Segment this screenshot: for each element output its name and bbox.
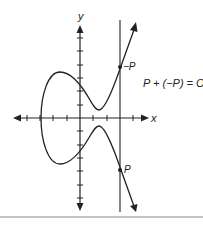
elliptic-curve-diagram: y x −P P P + (−P) = O xyxy=(0,0,203,225)
arrowhead-down-icon xyxy=(130,204,138,212)
arrowhead-up-icon xyxy=(130,22,138,32)
equation-label: P + (−P) = O xyxy=(143,77,203,89)
curve-lower-branch xyxy=(41,118,135,209)
point-p xyxy=(118,168,122,172)
x-axis xyxy=(13,115,149,122)
y-axis-label: y xyxy=(77,10,85,22)
point-neg-p xyxy=(118,65,122,69)
curve-upper-branch xyxy=(41,27,135,118)
neg-p-label: −P xyxy=(123,61,136,72)
x-axis-label: x xyxy=(150,112,157,124)
p-label: P xyxy=(124,164,131,175)
